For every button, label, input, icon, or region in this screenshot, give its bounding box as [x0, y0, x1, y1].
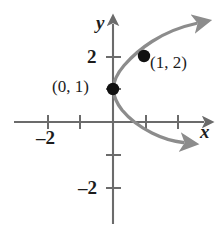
x-tick-label-neg2: –2 — [36, 128, 55, 147]
data-point-1-2 — [138, 50, 150, 62]
point-label-1-2: (1, 2) — [150, 54, 187, 71]
parabola-lower-branch — [113, 89, 183, 143]
parabola-curve — [113, 24, 196, 143]
y-tick-label-neg2: –2 — [78, 178, 97, 197]
data-point-0-1 — [107, 83, 119, 95]
coordinate-plane-svg — [0, 0, 224, 226]
point-label-0-1: (0, 1) — [52, 78, 89, 95]
y-axis-label: y — [96, 13, 104, 32]
x-axis-label: x — [200, 122, 210, 141]
y-tick-label-2: 2 — [87, 47, 97, 66]
parabola-graph-figure: y x 2 –2 –2 (0, 1) (1, 2) — [0, 0, 224, 226]
